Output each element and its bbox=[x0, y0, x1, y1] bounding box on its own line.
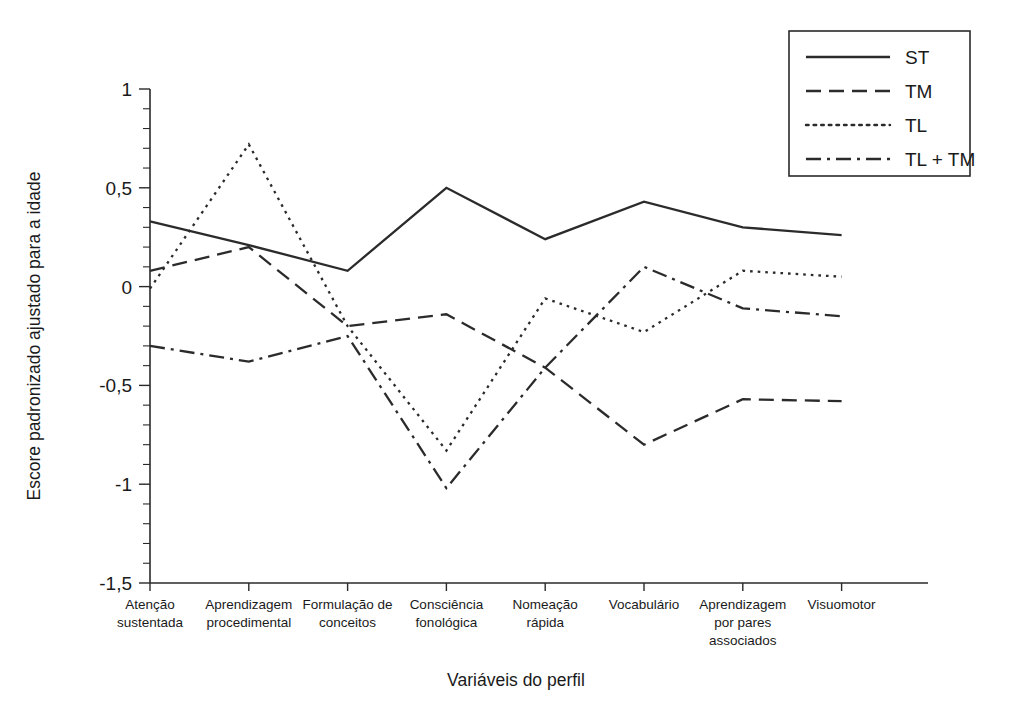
x-category-label: conceitos bbox=[319, 615, 376, 630]
x-category-label: Formulação de bbox=[303, 597, 393, 612]
x-category-label: procedimental bbox=[206, 615, 291, 630]
line-chart: 10,50-0,5-1-1,5 AtençãosustentadaAprendi… bbox=[0, 0, 1011, 715]
x-category-label: fonológica bbox=[416, 615, 478, 630]
x-axis-ticks bbox=[150, 583, 842, 591]
y-tick-label: -1,5 bbox=[99, 573, 132, 594]
legend: STTMTLTL + TM bbox=[789, 31, 975, 176]
series-line-tm bbox=[150, 247, 842, 445]
chart-page: 10,50-0,5-1-1,5 AtençãosustentadaAprendi… bbox=[0, 0, 1011, 715]
y-tick-label: 0 bbox=[121, 277, 132, 298]
data-series-group bbox=[150, 144, 842, 488]
x-category-label: Aprendizagem bbox=[699, 597, 786, 612]
series-line-st bbox=[150, 188, 842, 271]
x-category-label: associados bbox=[709, 633, 777, 648]
y-tick-label: -1 bbox=[115, 474, 132, 495]
y-axis-title: Escore padronizado ajustado para a idade bbox=[24, 172, 44, 501]
legend-label-st: ST bbox=[905, 47, 930, 68]
x-category-label: Consciência bbox=[410, 597, 484, 612]
y-axis-ticks bbox=[139, 89, 150, 583]
series-line-tl-tm bbox=[150, 267, 842, 488]
x-category-label: Atenção bbox=[125, 597, 175, 612]
legend-label-tl: TL bbox=[905, 115, 927, 136]
y-axis-tick-labels: 10,50-0,5-1-1,5 bbox=[99, 79, 132, 594]
y-tick-label: -0,5 bbox=[99, 375, 132, 396]
x-axis-category-labels: AtençãosustentadaAprendizagemprocediment… bbox=[117, 597, 876, 648]
y-tick-label: 0,5 bbox=[106, 178, 132, 199]
x-category-label: Visuomotor bbox=[808, 597, 877, 612]
x-category-label: sustentada bbox=[117, 615, 184, 630]
x-category-label: Aprendizagem bbox=[205, 597, 292, 612]
x-category-label: Nomeação bbox=[513, 597, 578, 612]
y-tick-label: 1 bbox=[121, 79, 132, 100]
x-axis-title: Variáveis do perfil bbox=[447, 670, 585, 690]
series-line-tl bbox=[150, 144, 842, 450]
legend-label-tl-tm: TL + TM bbox=[905, 149, 975, 170]
legend-label-tm: TM bbox=[905, 81, 932, 102]
x-category-label: Vocabulário bbox=[609, 597, 680, 612]
x-category-label: rápida bbox=[526, 615, 564, 630]
x-category-label: por pares bbox=[714, 615, 771, 630]
